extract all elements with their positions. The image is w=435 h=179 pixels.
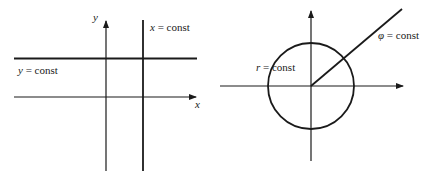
r-const-label: r = const <box>256 61 295 73</box>
phi-const-ray <box>311 9 402 86</box>
r-const-eq: = const <box>260 61 295 73</box>
phi-const-eq: = const <box>384 29 419 41</box>
y-const-label: y = const <box>17 64 58 76</box>
x-const-eq: = const <box>155 21 190 33</box>
cartesian-x-axis-label: x <box>194 98 200 110</box>
phi-const-label: φ = const <box>378 29 419 41</box>
polar-diagram: r = const φ = const <box>220 9 419 161</box>
cartesian-diagram: y x x = const y = const <box>14 11 200 171</box>
x-const-label: x = const <box>149 21 190 33</box>
cartesian-y-axis-label: y <box>92 11 98 23</box>
y-const-eq: = const <box>23 64 58 76</box>
coordinate-diagrams: y x x = const y = const r = const φ = co… <box>0 0 435 179</box>
